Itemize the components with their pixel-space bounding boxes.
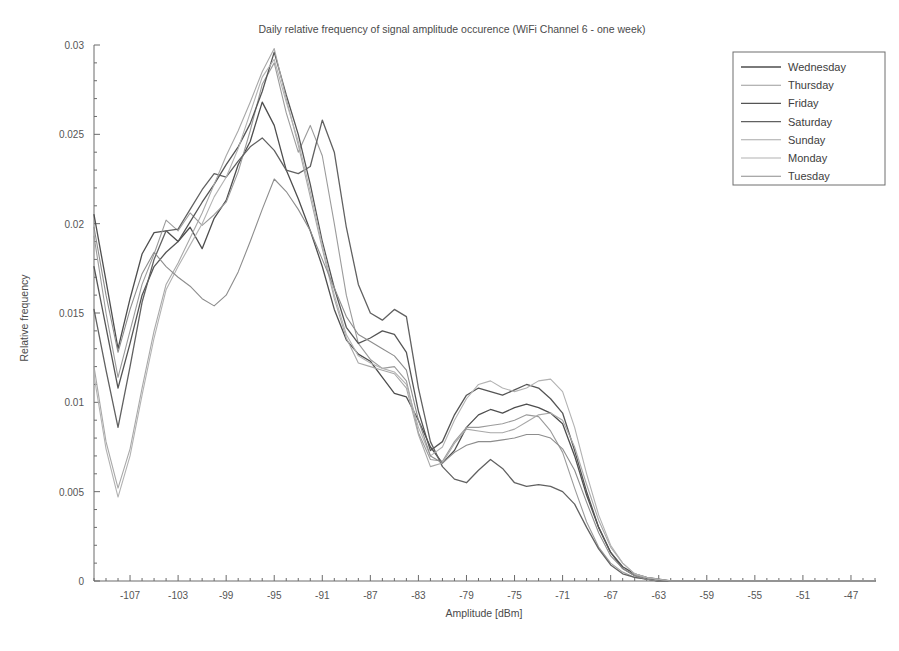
x-tick-label: -107 <box>120 590 140 601</box>
x-tick-label: -67 <box>603 590 618 601</box>
x-tick-label: -71 <box>555 590 570 601</box>
x-tick-label: -55 <box>748 590 763 601</box>
y-axis-label: Relative frequency <box>18 274 30 362</box>
legend-label-monday[interactable]: Monday <box>788 152 828 164</box>
chart-figure: Daily relative frequency of signal ampli… <box>0 0 899 651</box>
x-tick-label: -83 <box>411 590 426 601</box>
x-tick-label: -79 <box>459 590 474 601</box>
x-tick-label: -87 <box>363 590 378 601</box>
legend-label-saturday[interactable]: Saturday <box>788 116 833 128</box>
legend-label-wednesday[interactable]: Wednesday <box>788 61 846 73</box>
x-tick-label: -95 <box>267 590 282 601</box>
legend-label-thursday[interactable]: Thursday <box>788 79 834 91</box>
y-tick-label: 0.025 <box>59 129 84 140</box>
chart-legend[interactable]: WednesdayThursdayFridaySaturdaySundayMon… <box>733 52 885 185</box>
x-tick-label: -63 <box>651 590 666 601</box>
x-tick-label: -47 <box>844 590 859 601</box>
legend-label-friday[interactable]: Friday <box>788 97 819 109</box>
legend-label-tuesday[interactable]: Tuesday <box>788 170 830 182</box>
y-tick-label: 0.01 <box>65 397 85 408</box>
y-tick-label: 0.03 <box>65 40 85 51</box>
y-tick-label: 0.015 <box>59 308 84 319</box>
x-tick-label: -75 <box>507 590 522 601</box>
x-tick-label: -99 <box>219 590 234 601</box>
x-tick-label: -103 <box>168 590 188 601</box>
line-chart-canvas: Daily relative frequency of signal ampli… <box>0 0 899 651</box>
y-tick-label: 0.02 <box>65 219 85 230</box>
y-tick-label: 0.005 <box>59 487 84 498</box>
x-axis-label: Amplitude [dBm] <box>445 607 522 619</box>
y-tick-label: 0 <box>78 576 84 587</box>
x-tick-label: -59 <box>700 590 715 601</box>
chart-title: Daily relative frequency of signal ampli… <box>259 23 646 35</box>
x-tick-label: -51 <box>796 590 811 601</box>
legend-label-sunday[interactable]: Sunday <box>788 134 826 146</box>
x-tick-label: -91 <box>315 590 330 601</box>
